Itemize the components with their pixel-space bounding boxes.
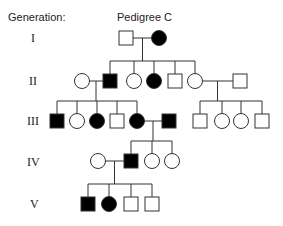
affected-female-circle bbox=[102, 197, 117, 212]
unaffected-male-square bbox=[124, 197, 138, 211]
unaffected-female-circle bbox=[127, 74, 142, 89]
unaffected-male-square bbox=[233, 74, 247, 88]
unaffected-female-circle bbox=[91, 154, 106, 169]
unaffected-female-circle bbox=[215, 114, 230, 129]
unaffected-female-circle bbox=[145, 154, 160, 169]
unaffected-male-square bbox=[193, 114, 207, 128]
unaffected-female-circle bbox=[70, 114, 85, 129]
unaffected-male-square bbox=[145, 197, 159, 211]
unaffected-male-square bbox=[110, 114, 124, 128]
affected-female-circle bbox=[90, 114, 105, 129]
unaffected-female-circle bbox=[165, 154, 180, 169]
unaffected-male-square bbox=[168, 74, 182, 88]
affected-male-square bbox=[124, 154, 138, 168]
unaffected-male-square bbox=[255, 114, 269, 128]
affected-female-circle bbox=[147, 74, 162, 89]
affected-female-circle bbox=[130, 114, 145, 129]
affected-male-square bbox=[103, 74, 117, 88]
unaffected-female-circle bbox=[75, 74, 90, 89]
pedigree-diagram bbox=[0, 0, 283, 226]
unaffected-female-circle bbox=[234, 114, 249, 129]
affected-female-circle bbox=[152, 31, 167, 46]
affected-male-square bbox=[50, 114, 64, 128]
unaffected-male-square bbox=[119, 31, 133, 45]
affected-male-square bbox=[81, 197, 95, 211]
unaffected-female-circle bbox=[188, 74, 203, 89]
affected-male-square bbox=[162, 114, 176, 128]
